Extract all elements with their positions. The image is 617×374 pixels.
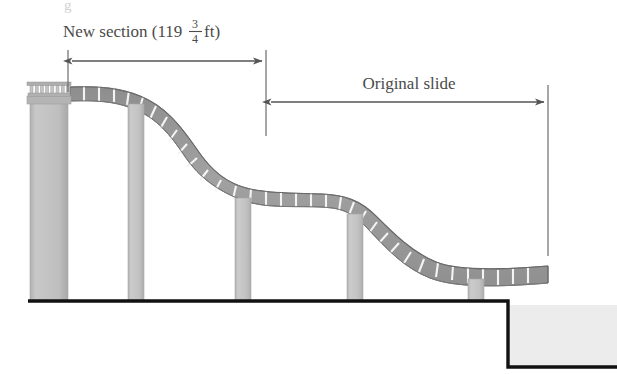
slide-diagram-figure: g <box>0 0 617 374</box>
original-slide-dimension: Original slide <box>271 74 548 256</box>
original-slide-label: Original slide <box>362 74 455 93</box>
support-column-1 <box>128 104 144 301</box>
support-column-4 <box>468 279 484 301</box>
support-column-3 <box>347 214 363 301</box>
new-section-label-prefix: New section (119 <box>63 22 182 41</box>
left-tower <box>27 82 71 301</box>
railing-bottom-rail <box>28 93 70 97</box>
support-column-2 <box>235 198 251 301</box>
tower-column <box>30 103 68 301</box>
tower-deck <box>27 96 71 104</box>
ground-step-fill <box>508 305 617 367</box>
fraction-numerator: 3 <box>192 17 198 31</box>
slide-segment-dividers <box>84 86 528 285</box>
railing-top-rail <box>27 82 71 86</box>
diagram-canvas: g <box>0 0 617 374</box>
new-section-label-suffix: ft) <box>204 22 220 41</box>
railing-balusters <box>30 85 69 93</box>
partial-top-glyph: g <box>64 0 72 13</box>
fraction-denominator: 4 <box>192 32 198 46</box>
new-section-label: New section (119 3 4 ft) <box>63 17 220 46</box>
